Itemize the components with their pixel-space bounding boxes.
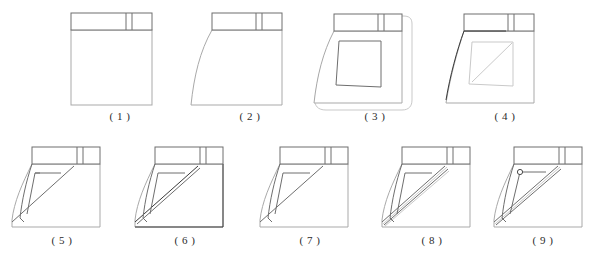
figure-step-7-drawing bbox=[250, 140, 370, 236]
figure-caption: ( 1 ) bbox=[60, 110, 180, 122]
rivet-icon bbox=[517, 169, 522, 174]
figure-step-1-drawing bbox=[60, 6, 180, 114]
figure-caption: ( 5 ) bbox=[2, 234, 122, 246]
waistband bbox=[514, 147, 582, 164]
figure-step-4: ( 4 ) bbox=[440, 6, 570, 131]
figure-step-7: ( 7 ) bbox=[250, 140, 370, 257]
pocket-bag-outline bbox=[336, 41, 381, 87]
waistband bbox=[402, 147, 470, 164]
figure-caption: ( 2 ) bbox=[190, 110, 310, 122]
figure-step-4-drawing bbox=[440, 6, 570, 114]
figure-step-5-drawing bbox=[2, 140, 122, 236]
waistband bbox=[280, 147, 348, 164]
figure-step-6-drawing bbox=[125, 140, 245, 236]
figure-step-9: ( 9 ) bbox=[482, 140, 604, 257]
waistband bbox=[212, 13, 282, 30]
figure-caption: ( 6 ) bbox=[125, 234, 245, 246]
figure-step-8-drawing bbox=[372, 140, 492, 236]
figure-step-9-drawing bbox=[482, 140, 604, 236]
panel-body bbox=[71, 30, 152, 105]
waistband bbox=[464, 14, 534, 31]
figure-caption: ( 9 ) bbox=[482, 234, 604, 246]
figure-step-5: ( 5 ) bbox=[2, 140, 122, 257]
figure-step-3-drawing bbox=[310, 6, 440, 114]
diagram-sheet: ( 1 ) ( 2 ) ( 3 ) bbox=[0, 0, 604, 257]
figure-step-2-drawing bbox=[190, 6, 310, 114]
waistband bbox=[32, 147, 100, 164]
figure-caption: ( 3 ) bbox=[310, 110, 440, 122]
figure-step-1: ( 1 ) bbox=[60, 6, 180, 131]
figure-step-6: ( 6 ) bbox=[125, 140, 245, 257]
figure-step-2: ( 2 ) bbox=[190, 6, 310, 131]
figure-caption: ( 4 ) bbox=[440, 110, 570, 122]
figure-step-3: ( 3 ) bbox=[310, 6, 440, 131]
figure-step-8: ( 8 ) bbox=[372, 140, 492, 257]
panel-body bbox=[191, 30, 282, 105]
waistband bbox=[71, 13, 152, 30]
figure-caption: ( 7 ) bbox=[250, 234, 370, 246]
figure-caption: ( 8 ) bbox=[372, 234, 492, 246]
waistband bbox=[155, 147, 223, 164]
panel-body bbox=[494, 164, 582, 227]
waistband bbox=[334, 14, 402, 31]
